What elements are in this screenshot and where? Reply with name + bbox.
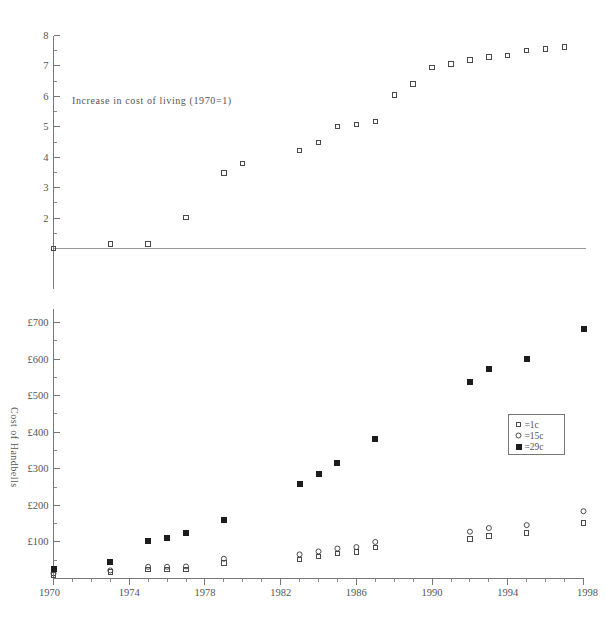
lower-y-tick-label: £600 [28,354,49,365]
data-point [335,546,340,551]
data-point [373,546,377,550]
cost-of-handbells-panel: £100£200£300£400£500£600£700 [28,309,587,579]
cost-of-living-annotation: Increase in cost of living (1970=1) [72,95,232,107]
data-point [506,53,510,57]
cost-of-living-annotation-text: Increase in cost of living (1970=1) [72,95,232,107]
data-point [316,554,320,558]
scatter-chart-plot: 2345678 £100£200£300£400£500£600£700 197… [0,0,606,620]
data-point [543,47,547,51]
data-point [108,242,112,246]
data-point [184,215,188,219]
data-point [392,93,396,97]
lower-y-tick-label: £200 [28,500,49,511]
data-point [411,82,415,86]
lower-y-tick-label: £500 [28,390,49,401]
data-point [468,537,472,541]
data-point [581,521,585,525]
lower-y-tick-label: £100 [28,536,49,547]
data-point [297,557,301,561]
x-tick-label: 1982 [270,587,291,598]
data-point [108,560,113,565]
data-point [449,62,453,66]
series-29c [51,327,586,572]
data-point [316,549,321,554]
data-point [468,58,472,62]
x-tick-label: 1994 [497,587,519,598]
data-point [373,436,378,441]
x-tick-label: 1990 [422,587,443,598]
data-point [335,461,340,466]
data-point [335,125,339,129]
data-point [222,171,226,175]
data-point [524,357,529,362]
x-tick-label: 1970 [39,587,60,598]
x-axis: 19701974197819821986199019941998 [39,579,598,598]
upper-y-tick-label: 2 [43,213,48,224]
cost-of-living-panel: 2345678 [43,30,585,289]
upper-y-tick-label: 4 [43,152,49,163]
legend-label-0: =1c [525,420,539,430]
series-cost-of-living [51,45,566,251]
data-point [581,509,586,514]
data-point [430,65,434,69]
data-point [297,552,302,557]
data-point [146,539,151,544]
data-point [184,564,189,569]
data-point [524,523,529,528]
series-15c [51,509,586,576]
data-point [373,539,378,544]
data-point [316,471,321,476]
legend-label-1: =15c [525,431,544,441]
chart-legend[interactable]: =1c=15c=29c [509,415,565,455]
upper-y-tick-label: 7 [43,60,48,71]
data-point [467,379,472,384]
x-tick-label: 1978 [194,587,215,598]
data-point [184,531,189,536]
data-point [241,161,245,165]
x-tick-label: 1974 [119,587,141,598]
data-point [467,529,472,534]
data-point [297,148,301,152]
upper-y-tick-label: 6 [43,91,48,102]
data-point [486,367,491,372]
data-point [146,242,150,246]
legend-marker-filled-square [516,444,521,449]
lower-y-tick-label: £300 [28,463,49,474]
data-point [486,526,491,531]
data-point [51,566,56,571]
upper-y-tick-label: 3 [43,182,48,193]
lower-y-tick-label: £400 [28,427,49,438]
y-axis-title: Cost of Handbells [9,407,20,488]
upper-y-tick-label: 8 [43,30,48,41]
data-point [487,55,491,59]
data-point [354,545,359,550]
data-point [525,531,529,535]
data-point [221,517,226,522]
legend-label-2: =29c [525,442,544,452]
data-point [562,45,566,49]
data-point [165,536,170,541]
data-point [146,564,151,569]
data-point [316,140,320,144]
y-axis-title-text: Cost of Handbells [9,407,20,488]
chart-root: 2345678 £100£200£300£400£500£600£700 197… [0,0,606,620]
data-point [525,49,529,53]
x-tick-label: 1986 [346,587,367,598]
upper-y-tick-label: 5 [43,121,48,132]
x-tick-label: 1998 [577,587,598,598]
lower-y-tick-label: £700 [28,317,49,328]
data-point [581,327,586,332]
data-point [487,534,491,538]
data-point [354,550,358,554]
data-point [373,119,377,123]
data-point [335,551,339,555]
data-point [297,482,302,487]
data-point [354,122,358,126]
data-point [165,564,170,569]
